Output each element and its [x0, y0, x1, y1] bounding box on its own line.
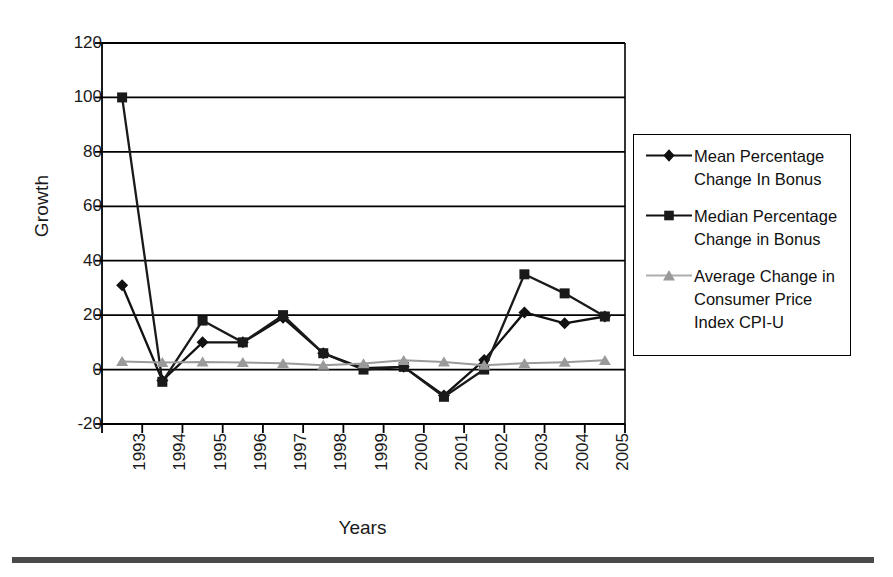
legend-label-line: Average Change in — [694, 265, 835, 288]
chart-figure: Growth 120100806040200-20 19931994199519… — [0, 0, 893, 577]
legend-label-cpi: Average Change in Consumer Price Index C… — [694, 265, 835, 334]
square-data-point — [318, 348, 328, 358]
legend-label-line: Median Percentage — [694, 205, 837, 228]
legend-label-line: Index CPI-U — [694, 311, 835, 334]
legend-label-line: Change In Bonus — [694, 168, 824, 191]
diamond-data-point — [559, 317, 571, 329]
series-line — [122, 97, 605, 396]
square-data-point — [157, 377, 167, 387]
series-square — [117, 92, 610, 401]
x-tick-label: 1995 — [211, 433, 231, 493]
x-tick-label: 2003 — [532, 433, 552, 493]
x-tick-label: 1993 — [130, 433, 150, 493]
x-tick-label: 2002 — [492, 433, 512, 493]
square-data-point — [117, 92, 127, 102]
square-marker-icon — [644, 206, 694, 225]
x-tick-label: 2005 — [613, 433, 633, 493]
chart-legend: Mean Percentage Change In Bonus Median P… — [633, 134, 851, 356]
legend-label-line: Consumer Price — [694, 288, 835, 311]
legend-label-mean: Mean Percentage Change In Bonus — [694, 145, 824, 191]
x-tick-label: 1997 — [291, 433, 311, 493]
legend-item-mean: Mean Percentage Change In Bonus — [634, 145, 850, 191]
series-triangle — [116, 355, 611, 370]
legend-label-line: Change in Bonus — [694, 228, 837, 251]
diamond-marker-icon — [644, 146, 694, 165]
legend-label-median: Median Percentage Change in Bonus — [694, 205, 837, 251]
square-data-point — [519, 269, 529, 279]
square-data-point — [600, 312, 610, 322]
x-tick-label: 1999 — [372, 433, 392, 493]
legend-item-median: Median Percentage Change in Bonus — [634, 205, 850, 251]
square-data-point — [198, 316, 208, 326]
page-divider-rule — [12, 557, 874, 563]
series-line — [122, 285, 605, 395]
diamond-data-point — [116, 279, 128, 291]
square-data-point — [278, 310, 288, 320]
square-data-point — [439, 392, 449, 402]
x-tick-label: 1994 — [170, 433, 190, 493]
legend-item-cpi: Average Change in Consumer Price Index C… — [634, 265, 850, 334]
triangle-marker-icon — [644, 266, 694, 285]
x-tick-label: 1996 — [251, 433, 271, 493]
legend-label-line: Mean Percentage — [694, 145, 824, 168]
square-data-point — [238, 337, 248, 347]
x-tick-label: 2004 — [573, 433, 593, 493]
x-axis-title: Years — [100, 517, 625, 539]
x-tick-label: 2000 — [412, 433, 432, 493]
x-tick-label: 2001 — [452, 433, 472, 493]
x-tick-label: 1998 — [331, 433, 351, 493]
square-data-point — [560, 288, 570, 298]
